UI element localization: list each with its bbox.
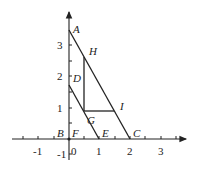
origin-point — [67, 137, 70, 140]
coordinate-diagram: -1 1 2 3 0 1 2 3 -1 A H D I G B F E C — [0, 0, 198, 174]
point-label-H: H — [88, 45, 98, 57]
x-tick-label-2: 2 — [127, 145, 133, 157]
point-label-C: C — [133, 127, 141, 139]
y-tick-label-1: 1 — [57, 102, 63, 114]
x-tick-label-1: 1 — [96, 145, 102, 157]
y-tick-label-2: 2 — [57, 70, 63, 82]
point-label-A: A — [72, 23, 80, 35]
point-label-G: G — [87, 114, 95, 126]
point-label-E: E — [101, 127, 109, 139]
origin-label: 0 — [71, 145, 77, 157]
x-tick-label-neg1: -1 — [33, 145, 42, 157]
segment-AC — [69, 30, 130, 139]
point-label-D: D — [72, 72, 81, 84]
x-tick-label-3: 3 — [158, 145, 164, 157]
point-label-B: B — [57, 127, 64, 139]
y-tick-label-neg1: -1 — [57, 148, 66, 160]
y-tick-label-3: 3 — [57, 39, 63, 51]
point-label-F: F — [71, 127, 79, 139]
point-label-I: I — [119, 100, 125, 112]
